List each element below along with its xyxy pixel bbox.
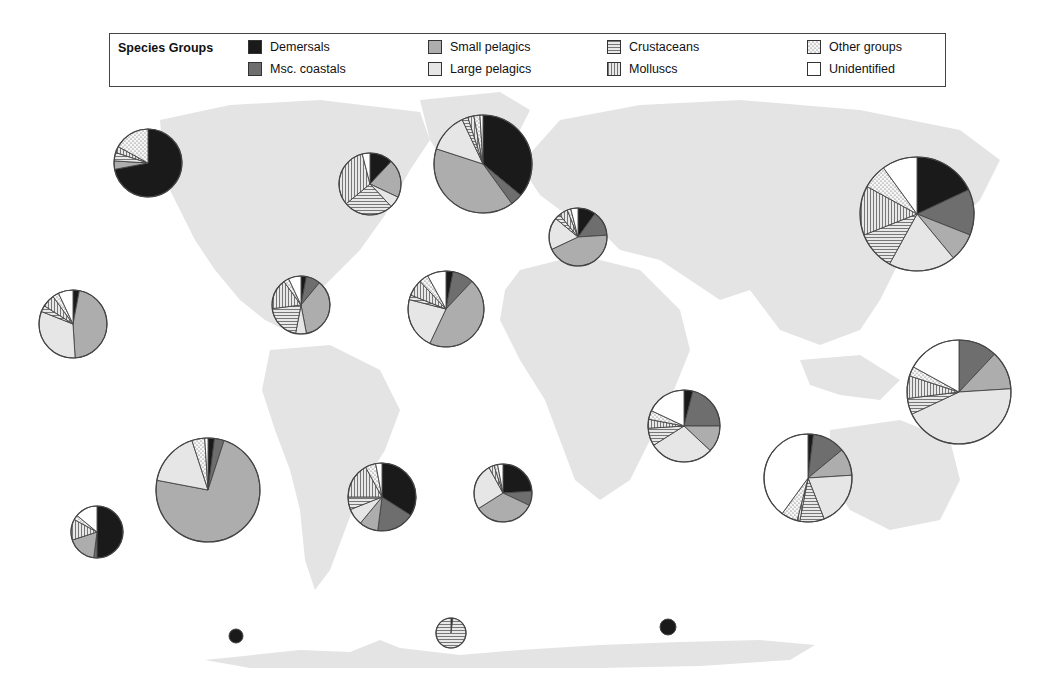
pie-slice-spel (73, 291, 107, 358)
pie-chart (436, 618, 466, 648)
world-map-chart (0, 0, 1048, 686)
legend-swatch-spel (428, 40, 442, 54)
pie-chart (434, 115, 532, 213)
pie-chart (907, 340, 1011, 444)
pie-chart (156, 438, 260, 542)
pie-slice-dem (660, 619, 676, 635)
pie-chart (549, 208, 607, 266)
legend-item-oth: Other groups (807, 40, 902, 54)
legend-item-msc: Msc. coastals (248, 62, 346, 76)
legend-title: Species Groups (118, 41, 213, 55)
pie-slice-crus (272, 305, 301, 333)
pie-chart (764, 434, 852, 522)
pie-slice-dem (229, 629, 243, 643)
pie-chart (408, 271, 484, 347)
legend-label: Small pelagics (450, 40, 531, 54)
pie-slice-dem (97, 506, 123, 558)
legend-label: Large pelagics (450, 62, 531, 76)
legend-swatch-dem (248, 40, 262, 54)
legend-label: Msc. coastals (270, 62, 346, 76)
pie-chart (71, 506, 123, 558)
legend-label: Other groups (829, 40, 902, 54)
legend-item-spel: Small pelagics (428, 40, 531, 54)
legend-label: Crustaceans (629, 40, 699, 54)
legend-item-moll: Molluscs (607, 62, 678, 76)
legend-label: Unidentified (829, 62, 895, 76)
pie-chart (339, 153, 401, 215)
pie-chart (39, 290, 107, 358)
land-antarctica (205, 640, 815, 668)
pie-chart (860, 157, 974, 271)
legend-item-unid: Unidentified (807, 62, 895, 76)
legend-swatch-unid (807, 62, 821, 76)
pie-chart (272, 276, 330, 334)
land-africa (500, 255, 690, 500)
pie-chart (660, 619, 676, 635)
pie-chart (229, 629, 243, 643)
legend-label: Demersals (270, 40, 330, 54)
legend-swatch-crus (607, 40, 621, 54)
pie-chart (474, 464, 532, 522)
legend-item-lpel: Large pelagics (428, 62, 531, 76)
legend-swatch-moll (607, 62, 621, 76)
legend-swatch-lpel (428, 62, 442, 76)
pie-chart (648, 390, 720, 462)
legend-swatch-msc (248, 62, 262, 76)
legend-item-crus: Crustaceans (607, 40, 699, 54)
legend-item-dem: Demersals (248, 40, 330, 54)
legend-label: Molluscs (629, 62, 678, 76)
legend-swatch-oth (807, 40, 821, 54)
land-southeast-asia (800, 355, 900, 400)
legend: Species Groups DemersalsMsc. coastalsSma… (109, 33, 946, 87)
pie-chart (114, 129, 182, 197)
pie-chart (348, 463, 416, 531)
